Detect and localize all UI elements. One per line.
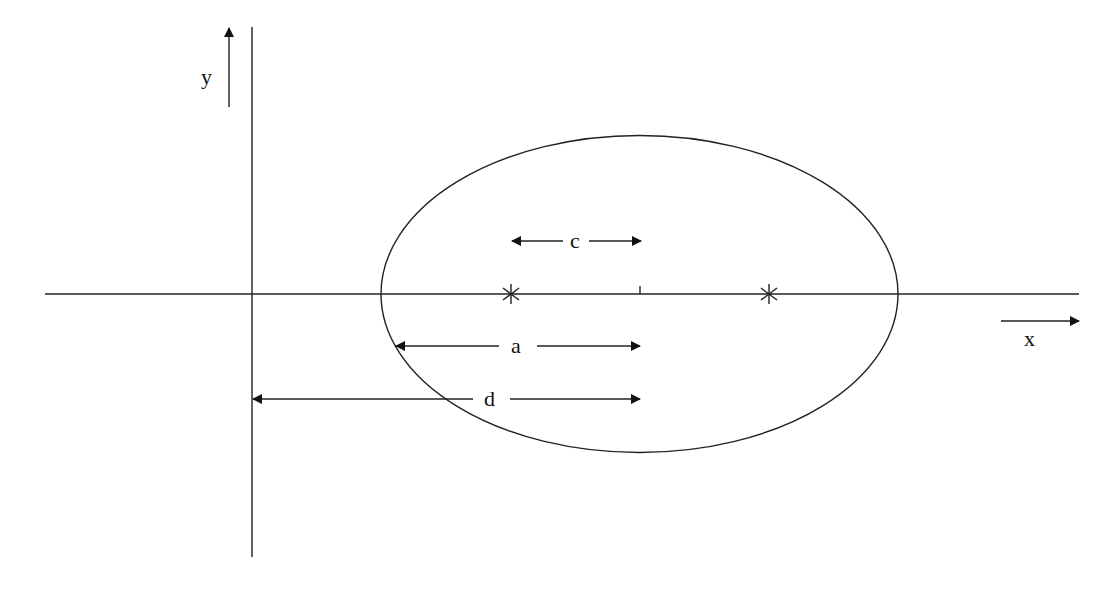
y-axis-label: y (201, 64, 212, 89)
dimension-c: c (512, 228, 641, 253)
x-axis-label: x (1024, 326, 1035, 351)
c-label: c (570, 228, 580, 253)
ellipse-diagram: y x c a d (0, 0, 1115, 590)
a-label: a (511, 333, 521, 358)
d-label: d (484, 386, 495, 411)
dimension-a: a (396, 333, 640, 358)
dimension-d: d (253, 386, 640, 411)
